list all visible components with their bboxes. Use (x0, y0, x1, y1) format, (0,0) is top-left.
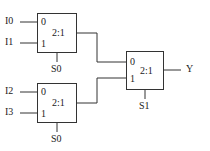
input-label-i3: I3 (5, 107, 13, 117)
mux-1: 0 1 2:1 (37, 13, 77, 53)
output-label-y: Y (186, 64, 193, 74)
input-label-i1: I1 (5, 37, 13, 47)
mux-3-ratio: 2:1 (140, 66, 153, 76)
mux-2: 0 1 2:1 (37, 83, 77, 123)
mux-2-in1-label: 1 (41, 109, 46, 119)
mux-1-in0-label: 0 (41, 17, 46, 27)
input-label-i0: I0 (5, 16, 13, 26)
mux-3-select-label: S1 (139, 101, 150, 111)
mux-1-select-label: S0 (51, 64, 62, 74)
mux-3-in1-label: 1 (130, 74, 135, 84)
mux-3-in0-label: 0 (130, 57, 135, 67)
mux-2-select-label: S0 (51, 134, 62, 144)
wire-mux2-out (76, 78, 126, 103)
mux-1-ratio: 2:1 (52, 28, 65, 38)
wire-mux1-out (76, 33, 126, 62)
mux-3: 0 1 2:1 (126, 51, 164, 90)
mux-1-in1-label: 1 (41, 39, 46, 49)
mux-2-in0-label: 0 (41, 87, 46, 97)
mux-2-ratio: 2:1 (52, 98, 65, 108)
wires (0, 0, 210, 151)
input-label-i2: I2 (5, 86, 13, 96)
